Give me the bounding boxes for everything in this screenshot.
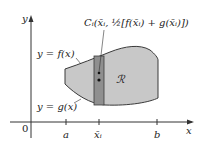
region-r bbox=[65, 46, 158, 105]
x-axis-arrow-icon bbox=[187, 120, 194, 125]
region-label: ℛ bbox=[116, 74, 125, 85]
centroid-diagram: y x 0 a x̄ᵢ b y = f(x) y = g(x) ℛ Cᵢ(x̄ᵢ… bbox=[0, 0, 202, 147]
bottom-curve-label: y = g(x) bbox=[37, 102, 77, 112]
midpoint-dot bbox=[97, 78, 100, 81]
tick-a-label: a bbox=[63, 130, 69, 140]
tick-b-label: b bbox=[154, 130, 160, 140]
origin-label: 0 bbox=[22, 124, 28, 134]
x-axis-label: x bbox=[186, 126, 192, 136]
top-curve-label: y = f(x) bbox=[37, 49, 75, 59]
y-axis-arrow-icon bbox=[29, 15, 34, 22]
centroid-point bbox=[98, 72, 101, 75]
centroid-label: Cᵢ(x̄ᵢ, ½[f(x̄ᵢ) + g(x̄ᵢ)]) bbox=[84, 18, 189, 28]
y-axis-label: y bbox=[22, 14, 28, 24]
tick-xi-label: x̄ᵢ bbox=[94, 130, 102, 140]
